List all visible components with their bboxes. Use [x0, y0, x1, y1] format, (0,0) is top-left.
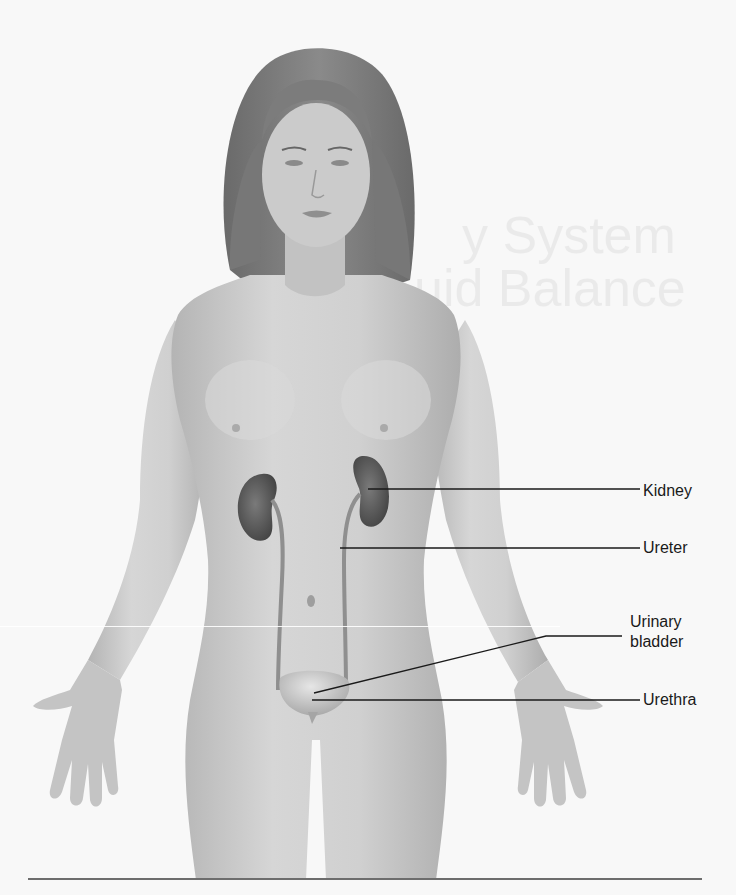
right-hand: [514, 660, 603, 807]
label-urethra: Urethra: [643, 690, 696, 710]
left-hand: [33, 660, 122, 807]
label-kidney: Kidney: [643, 481, 692, 501]
face: [262, 103, 370, 247]
bottom-divider: [28, 878, 702, 880]
urinary-system-figure: y System uid Balance: [0, 0, 736, 895]
torso: [171, 275, 460, 880]
label-urinary-bladder: Urinary bladder: [630, 612, 683, 652]
anatomical-illustration: [0, 0, 736, 895]
scan-artifact-line: [0, 626, 560, 627]
label-ureter: Ureter: [643, 538, 687, 558]
